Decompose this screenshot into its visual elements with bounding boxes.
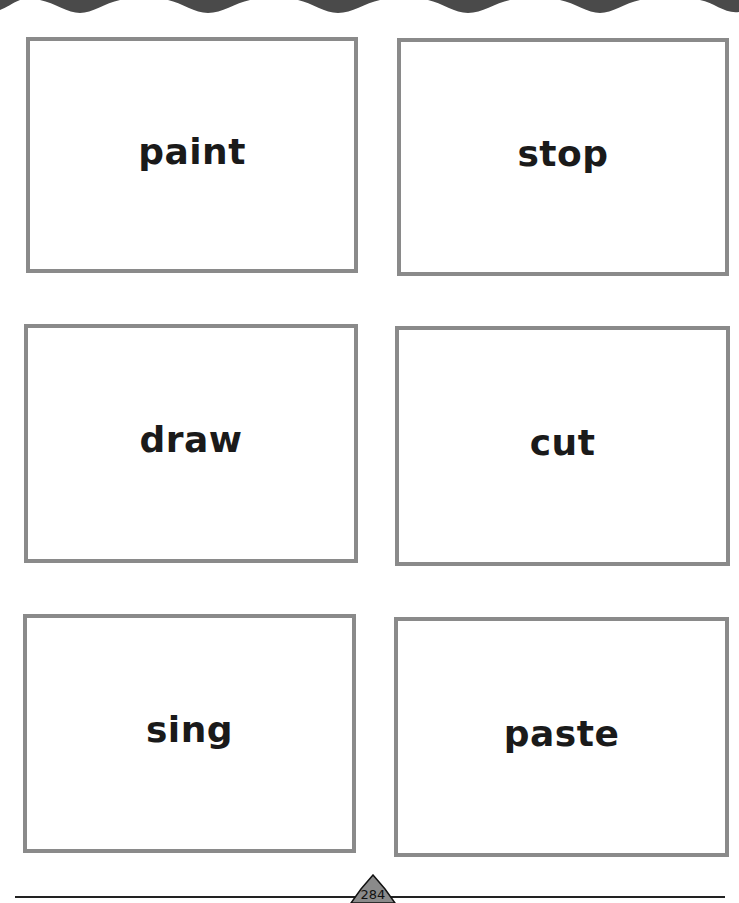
word-card-stop: stop <box>397 38 729 276</box>
word-card-paint: paint <box>26 37 358 273</box>
word-card-sing: sing <box>23 614 356 853</box>
word-card-cut: cut <box>395 326 730 566</box>
page-number: 284 <box>349 886 397 903</box>
card-word: stop <box>517 133 608 174</box>
card-word: paste <box>504 713 620 754</box>
card-word: cut <box>530 422 596 463</box>
word-card-draw: draw <box>24 324 358 563</box>
word-card-paste: paste <box>394 617 729 857</box>
card-word: sing <box>146 709 233 750</box>
scalloped-header-border <box>0 0 739 16</box>
card-word: draw <box>139 419 242 460</box>
card-word: paint <box>138 131 246 172</box>
